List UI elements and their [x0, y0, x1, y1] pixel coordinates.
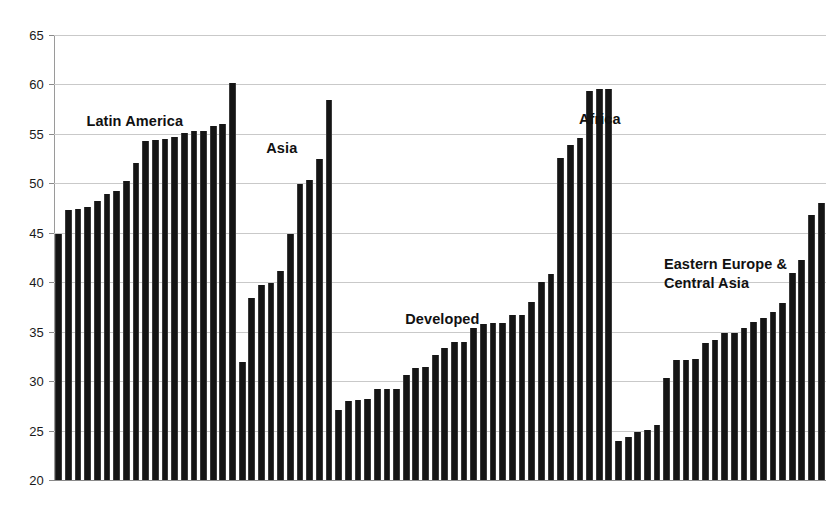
y-tick-65	[49, 35, 54, 36]
group-label-developed: Developed	[405, 310, 479, 329]
bar	[577, 138, 584, 480]
bar	[364, 399, 371, 480]
group-label-eastern-europe-central-asia: Eastern Europe & Central Asia	[664, 255, 787, 293]
y-tick-40	[49, 282, 54, 283]
bar	[181, 133, 188, 480]
bar	[384, 389, 391, 480]
bar	[605, 89, 612, 480]
bar	[750, 322, 757, 480]
bar	[818, 203, 825, 480]
bar	[692, 359, 699, 480]
bar	[200, 131, 207, 480]
bar	[277, 271, 284, 480]
bar	[499, 323, 506, 480]
y-tick-label-30: 30	[0, 374, 44, 389]
bar	[789, 273, 796, 480]
bar	[770, 312, 777, 480]
bar	[248, 298, 255, 480]
bar	[644, 430, 651, 480]
bar	[451, 342, 458, 480]
bar	[548, 274, 555, 480]
y-tick-50	[49, 183, 54, 184]
bar	[133, 163, 140, 480]
bar	[663, 378, 670, 480]
y-tick-label-55: 55	[0, 126, 44, 141]
bar	[808, 215, 815, 480]
bar	[480, 324, 487, 480]
group-label-latin-america: Latin America	[86, 112, 183, 131]
bar	[171, 137, 178, 480]
bar	[702, 343, 709, 480]
bar	[721, 333, 728, 480]
bar	[461, 342, 468, 480]
y-tick-label-65: 65	[0, 28, 44, 43]
bar	[229, 83, 236, 480]
bar	[741, 328, 748, 480]
bar	[326, 100, 333, 480]
bar	[634, 432, 641, 480]
bar	[779, 303, 786, 480]
bar	[509, 315, 516, 480]
bar	[519, 315, 526, 480]
y-tick-label-25: 25	[0, 423, 44, 438]
bar	[422, 367, 429, 480]
bar	[113, 191, 120, 480]
plot-area: Latin AmericaAsiaDevelopedAfricaEastern …	[54, 35, 826, 480]
bar	[219, 124, 226, 480]
bar	[258, 285, 265, 480]
bar	[673, 360, 680, 480]
y-tick-30	[49, 381, 54, 382]
y-tick-label-45: 45	[0, 225, 44, 240]
y-tick-20	[49, 480, 54, 481]
bar	[210, 126, 217, 480]
bar	[345, 401, 352, 480]
bar	[798, 260, 805, 480]
bar	[152, 140, 159, 480]
bar	[683, 360, 690, 480]
bar	[297, 184, 304, 480]
bar	[287, 234, 294, 480]
bar	[528, 302, 535, 480]
y-tick-label-60: 60	[0, 77, 44, 92]
bar	[441, 348, 448, 480]
bar	[412, 368, 419, 480]
bar	[142, 141, 149, 480]
y-tick-60	[49, 84, 54, 85]
bar	[432, 355, 439, 480]
bar	[596, 89, 603, 480]
bar	[65, 210, 72, 480]
y-tick-label-50: 50	[0, 176, 44, 191]
bar	[94, 201, 101, 480]
bar	[403, 375, 410, 480]
bar-chart: 20253035404550556065 Latin AmericaAsiaDe…	[0, 0, 832, 509]
bar	[239, 362, 246, 480]
bar	[731, 333, 738, 480]
bar	[104, 194, 111, 480]
bar	[615, 441, 622, 480]
bar	[55, 234, 62, 480]
bar	[760, 318, 767, 480]
bar	[306, 180, 313, 480]
bar	[316, 159, 323, 480]
bar	[84, 207, 91, 480]
bar	[162, 139, 169, 480]
y-tick-55	[49, 134, 54, 135]
bar	[191, 131, 198, 480]
group-label-asia: Asia	[266, 139, 297, 158]
y-tick-label-35: 35	[0, 324, 44, 339]
bar	[567, 145, 574, 480]
bar	[654, 425, 661, 480]
group-label-africa: Africa	[579, 110, 621, 129]
bar	[712, 340, 719, 480]
y-tick-45	[49, 233, 54, 234]
bar	[355, 400, 362, 480]
y-tick-25	[49, 431, 54, 432]
y-tick-35	[49, 332, 54, 333]
gridline-20	[54, 480, 826, 481]
bar	[268, 283, 275, 480]
bar	[123, 181, 130, 480]
y-tick-label-20: 20	[0, 473, 44, 488]
y-tick-label-40: 40	[0, 275, 44, 290]
bar	[393, 389, 400, 480]
bar	[374, 389, 381, 480]
